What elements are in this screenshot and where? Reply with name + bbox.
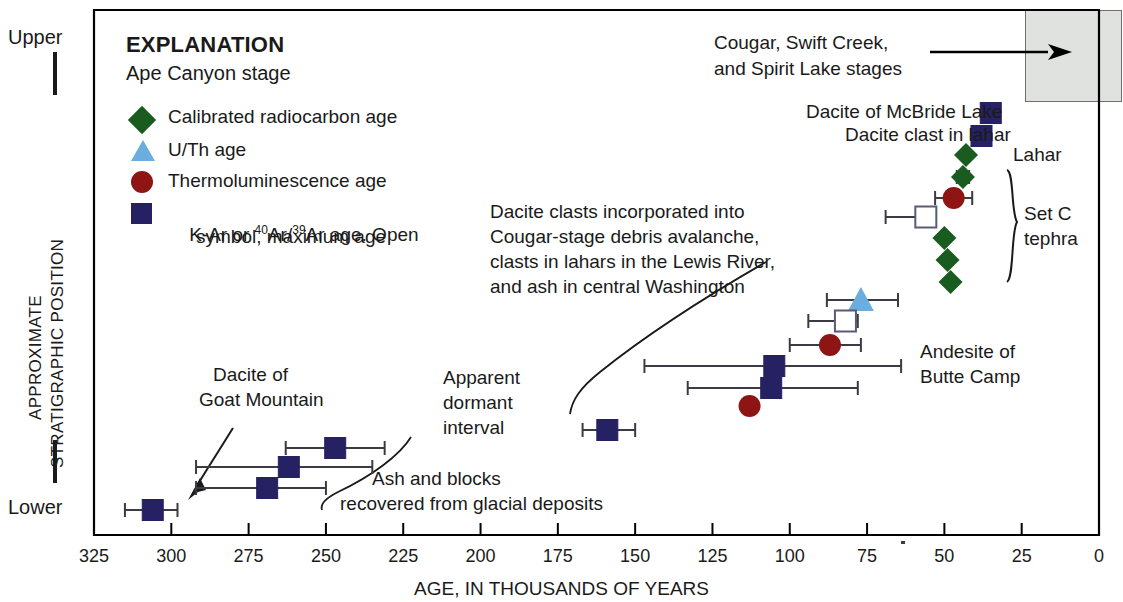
- data-point-sq-269: [196, 478, 326, 499]
- marker-square: [142, 500, 163, 521]
- label-dormant-interval-line2: dormant: [443, 392, 513, 414]
- label-dacite-mcbride-lake: Dacite of McBride Lake: [806, 101, 1002, 123]
- marker-circle: [819, 334, 841, 356]
- legend-label-kar-line2: symbol, maximum age: [196, 226, 386, 248]
- data-point-uth-age: [827, 287, 898, 311]
- data-point-setc-d2: [932, 226, 956, 250]
- marker-square: [278, 457, 299, 478]
- x-tick-label-300: 300: [141, 546, 201, 567]
- label-set-c-tephra-line2: tephra: [1024, 228, 1078, 250]
- x-tick-label-100: 100: [760, 546, 820, 567]
- data-point-sq-160: [583, 420, 636, 441]
- x-axis-ticks: [94, 523, 1099, 535]
- marker-square: [325, 438, 346, 459]
- x-tick-label-200: 200: [451, 546, 511, 567]
- marker-diamond: [951, 165, 975, 189]
- data-point-butte-camp-1: [644, 356, 901, 377]
- label-andesite-butte-camp-line1: Andesite of: [920, 341, 1015, 363]
- x-tick-label-50: 50: [914, 546, 974, 567]
- x-tick-label-275: 275: [219, 546, 279, 567]
- legend-label-radiocarbon: Calibrated radiocarbon age: [168, 106, 397, 128]
- label-dacite-clast-in-lahar: Dacite clast in lahar: [845, 124, 1011, 146]
- annotation-dacite-clasts-line1: Dacite clasts incorporated into: [490, 201, 745, 223]
- x-tick-label-25: 25: [992, 546, 1052, 567]
- legend-circle-icon: [131, 171, 153, 193]
- x-tick-label-125: 125: [682, 546, 742, 567]
- annotation-dacite-clasts-line4: and ash in central Washington: [490, 276, 745, 298]
- marker-diamond: [932, 226, 956, 250]
- annotation-cougar-stages-line2: and Spirit Lake stages: [714, 58, 902, 80]
- label-lahar: Lahar: [1013, 144, 1062, 166]
- marker-square: [915, 207, 936, 228]
- annotation-ash-blocks-line2: recovered from glacial deposits: [340, 493, 603, 515]
- x-tick-label-250: 250: [296, 546, 356, 567]
- legend-square-icon: [131, 203, 152, 224]
- marker-diamond: [939, 270, 963, 294]
- marker-square: [597, 420, 618, 441]
- annotation-dacite-clasts-line3: clasts in lahars in the Lewis River,: [490, 251, 775, 273]
- x-tick-label-225: 225: [373, 546, 433, 567]
- data-point-setc-d4: [939, 270, 963, 294]
- chart-root: 3253002752502252001751501251007550250 AG…: [0, 0, 1123, 602]
- data-point-sq-262: [196, 457, 372, 478]
- marker-square: [761, 378, 782, 399]
- legend-label-uth: U/Th age: [168, 139, 246, 161]
- x-tick-label-0: 0: [1069, 546, 1123, 567]
- stray-dot-artifact: [901, 541, 905, 544]
- legend-triangle-icon: [131, 140, 155, 161]
- data-point-tl-mid: [790, 334, 861, 356]
- marker-square: [764, 356, 785, 377]
- y-axis-lower-label: Lower: [8, 496, 62, 520]
- x-tick-label-150: 150: [605, 546, 665, 567]
- set-c-brace: [1007, 170, 1017, 282]
- cougar-arrowhead: [1048, 44, 1072, 60]
- legend-label-thermolum: Thermoluminescence age: [168, 170, 387, 192]
- y-axis-title-line1: APPROXIMATE: [26, 295, 46, 420]
- label-set-c-tephra-line1: Set C: [1024, 203, 1072, 225]
- annotation-cougar-stages-line1: Cougar, Swift Creek,: [714, 32, 888, 54]
- legend-subtitle: Ape Canyon stage: [126, 62, 291, 86]
- data-point-setc-d3: [935, 248, 959, 272]
- label-dormant-interval-line3: interval: [443, 417, 504, 439]
- label-goat-mountain-line2: Goat Mountain: [199, 389, 324, 411]
- data-point-butte-camp-2: [688, 378, 858, 399]
- legend-title: EXPLANATION: [126, 32, 284, 58]
- marker-square: [257, 478, 278, 499]
- annotation-ash-blocks-line1: Ash and blocks: [372, 468, 501, 490]
- y-axis-title-line2: STRATIGRAPHIC POSITION: [48, 239, 68, 468]
- data-point-setc-d1: [951, 165, 975, 189]
- x-tick-label-325: 325: [64, 546, 124, 567]
- label-goat-mountain-line1: Dacite of: [213, 364, 288, 386]
- annotation-dacite-clasts-line2: Cougar-stage debris avalanche,: [490, 226, 759, 248]
- label-dormant-interval-line1: Apparent: [443, 367, 520, 389]
- x-tick-label-175: 175: [528, 546, 588, 567]
- data-point-tl-low: [739, 395, 761, 417]
- goat-mountain-leader: [196, 428, 233, 487]
- data-marks: [125, 103, 1001, 521]
- data-point-sq-247: [286, 438, 385, 459]
- marker-diamond: [935, 248, 959, 272]
- data-point-setc-tl1: [935, 187, 972, 209]
- marker-square: [835, 311, 856, 332]
- data-point-sq-306: [125, 500, 178, 521]
- data-point-setc-open-sq: [886, 207, 937, 228]
- marker-circle: [739, 395, 761, 417]
- x-axis-title: AGE, IN THOUSANDS OF YEARS: [0, 578, 1123, 600]
- data-point-open-sq-mid: [808, 311, 857, 332]
- y-axis-upper-label: Upper: [8, 26, 62, 50]
- x-tick-label-75: 75: [837, 546, 897, 567]
- marker-circle: [943, 187, 965, 209]
- label-andesite-butte-camp-line2: Butte Camp: [920, 366, 1020, 388]
